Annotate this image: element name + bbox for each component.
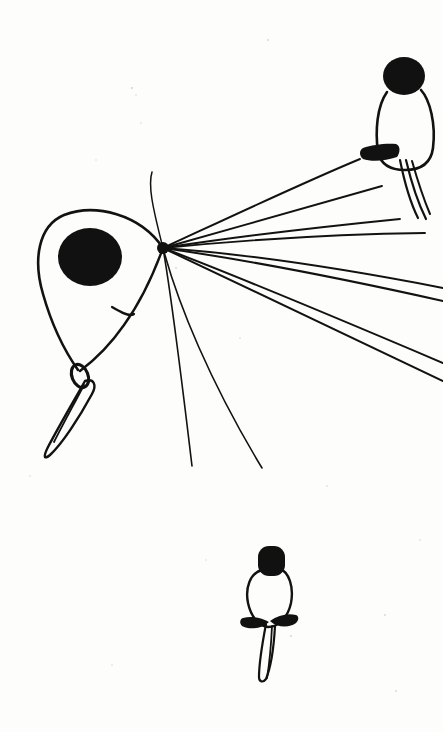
paper-speck <box>95 159 96 160</box>
paper-speck <box>419 539 421 541</box>
paper-speck <box>140 122 142 124</box>
paper-speck <box>111 664 113 666</box>
paper-speck <box>267 39 269 41</box>
lower-bird-head <box>258 546 285 576</box>
ink-drawing-svg <box>0 0 443 732</box>
large-bird-head <box>58 228 122 286</box>
paper-speck <box>29 475 31 477</box>
paper-speck <box>384 614 386 616</box>
drawing-canvas: Ink line drawing of three perched birds … <box>0 0 443 732</box>
paper-background <box>0 0 443 732</box>
paper-speck <box>326 485 328 487</box>
paper-speck <box>135 94 137 96</box>
paper-speck <box>205 559 206 560</box>
paper-speck <box>175 267 177 269</box>
paper-speck <box>239 337 241 339</box>
paper-speck <box>290 635 292 637</box>
paper-speck <box>131 87 133 89</box>
upper-bird-head <box>383 57 425 95</box>
paper-speck <box>395 690 397 692</box>
